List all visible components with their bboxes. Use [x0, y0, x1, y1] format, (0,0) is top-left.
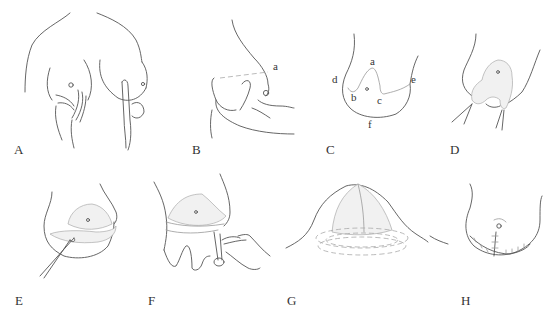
panel-f: F: [140, 160, 290, 313]
panel-d-drawing: [430, 0, 557, 160]
panel-label-c: C: [326, 142, 335, 158]
annotation-b-a: a: [273, 60, 278, 72]
panel-f-drawing: [140, 160, 290, 313]
panel-c-drawing: [300, 0, 440, 160]
panel-h-drawing: [430, 160, 557, 313]
panel-c: a b c d e f C: [300, 0, 440, 160]
panel-b: a B: [170, 0, 310, 160]
annotation-c-d: d: [332, 73, 338, 85]
panel-label-d: D: [450, 142, 459, 158]
panel-h: H: [430, 160, 557, 313]
panel-label-b: B: [192, 142, 201, 158]
panel-a-drawing: [0, 0, 180, 160]
panel-g: G: [270, 160, 430, 313]
annotation-c-a: a: [370, 55, 375, 67]
panel-e-drawing: [0, 160, 150, 313]
annotation-c-b: b: [351, 91, 357, 103]
panel-label-f: F: [148, 293, 155, 309]
annotation-c-f: f: [368, 118, 372, 130]
panel-label-h: H: [461, 293, 470, 309]
panel-label-e: E: [15, 293, 23, 309]
panel-e: E: [0, 160, 150, 313]
panel-d: D: [430, 0, 557, 160]
annotation-c-e: e: [411, 73, 416, 85]
panel-g-drawing: [270, 160, 430, 313]
panel-b-drawing: [170, 0, 310, 160]
panel-label-a: A: [14, 142, 23, 158]
panel-label-g: G: [287, 293, 296, 309]
annotation-c-c: c: [377, 94, 382, 106]
panel-a: A: [0, 0, 180, 160]
